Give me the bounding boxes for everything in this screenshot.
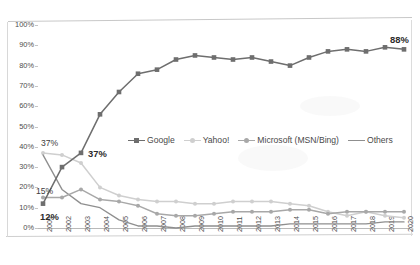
data-point xyxy=(345,210,349,214)
series-line xyxy=(43,47,404,203)
data-point xyxy=(269,210,273,214)
data-point xyxy=(98,198,102,202)
data-point xyxy=(79,187,83,191)
data-point xyxy=(193,202,197,206)
plot-area xyxy=(0,0,420,265)
data-point xyxy=(250,200,254,204)
data-point xyxy=(288,202,292,206)
data-point xyxy=(288,208,292,212)
data-point xyxy=(326,49,331,54)
data-point xyxy=(155,212,159,216)
series-line xyxy=(43,155,404,228)
legend-item-microsoft-msn-bing[interactable]: Microsoft (MSN/Bing) xyxy=(238,135,339,145)
data-point xyxy=(136,198,140,202)
data-point xyxy=(326,212,330,216)
legend-item-yahoo[interactable]: Yahoo! xyxy=(184,135,230,145)
data-point xyxy=(250,55,255,60)
data-label: 12% xyxy=(40,212,59,221)
data-point xyxy=(364,49,369,54)
legend-label: Others xyxy=(367,135,393,145)
series-others xyxy=(43,155,404,228)
chart-container: 100%90%80%70%60%50%40%30%20%10%0% 200120… xyxy=(0,0,420,265)
data-point xyxy=(117,200,121,204)
data-point xyxy=(250,210,254,214)
data-point xyxy=(288,63,293,68)
data-point xyxy=(60,165,65,170)
legend-swatch-icon xyxy=(238,136,255,144)
data-point xyxy=(383,210,387,214)
data-point xyxy=(212,212,216,216)
data-point xyxy=(212,202,216,206)
series-yahoo xyxy=(41,151,406,220)
series-line xyxy=(43,153,404,218)
chart-legend: GoogleYahoo!Microsoft (MSN/Bing)Others xyxy=(128,135,393,145)
data-point xyxy=(136,71,141,76)
data-point xyxy=(383,45,388,50)
data-label: 15% xyxy=(36,187,53,196)
data-point xyxy=(307,204,311,208)
legend-label: Yahoo! xyxy=(203,135,230,145)
data-point xyxy=(269,59,274,64)
data-label: 88% xyxy=(390,35,409,44)
legend-label: Microsoft (MSN/Bing) xyxy=(257,135,339,145)
data-point xyxy=(269,200,273,204)
data-point xyxy=(174,200,178,204)
legend-label: Google xyxy=(147,135,175,145)
data-point xyxy=(364,210,368,214)
data-point xyxy=(402,210,406,214)
data-point xyxy=(41,196,45,200)
data-point xyxy=(60,153,64,157)
data-point xyxy=(98,185,102,189)
data-point xyxy=(307,208,311,212)
legend-item-google[interactable]: Google xyxy=(128,135,175,145)
data-point xyxy=(383,214,387,218)
data-point xyxy=(345,47,350,52)
data-point xyxy=(231,57,236,62)
data-point xyxy=(231,210,235,214)
data-point xyxy=(79,161,83,165)
data-point xyxy=(212,55,217,60)
data-point xyxy=(193,214,197,218)
data-point xyxy=(402,216,406,220)
legend-swatch-icon xyxy=(348,136,365,144)
legend-swatch-icon xyxy=(128,136,145,144)
data-point xyxy=(345,214,349,218)
legend-swatch-icon xyxy=(184,136,201,144)
data-point xyxy=(174,57,179,62)
data-point xyxy=(155,67,160,72)
data-point xyxy=(117,194,121,198)
data-point xyxy=(41,201,46,206)
data-point xyxy=(231,200,235,204)
data-point xyxy=(402,47,407,52)
legend-item-others[interactable]: Others xyxy=(348,135,393,145)
data-label: 37% xyxy=(41,139,58,148)
data-point xyxy=(117,90,122,95)
data-label: 37% xyxy=(88,149,107,158)
data-point xyxy=(174,214,178,218)
data-point xyxy=(155,200,159,204)
data-point xyxy=(136,204,140,208)
data-point xyxy=(307,55,312,60)
data-point xyxy=(79,151,84,156)
data-point xyxy=(193,53,198,58)
data-point xyxy=(60,196,64,200)
data-point xyxy=(98,112,103,117)
